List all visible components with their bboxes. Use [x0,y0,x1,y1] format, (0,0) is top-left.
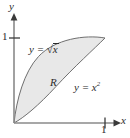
radicand: x [53,43,59,55]
curve-label-sqrt-prefix: y = [29,43,44,55]
curve-label-x-squared: y = x2 [74,81,100,93]
y-axis-tick-label-1: 1 [2,31,8,42]
region-label-r: R [50,77,57,88]
y-axis-arrowhead [11,13,18,21]
figure-canvas [0,0,130,138]
curve-label-sq-exponent: 2 [97,80,100,87]
x-axis-arrowhead [114,120,122,127]
y-axis-label: y [9,1,14,12]
radical-group: √x [47,42,59,55]
curve-label-sqrt-x: y = √x [29,42,59,55]
math-figure: y x 1 1 y = √x y = x2 R [0,0,130,138]
curve-label-sq-prefix: y = [74,81,89,93]
x-axis-tick-label-1: 1 [101,124,107,135]
x-axis-label: x [121,115,126,126]
